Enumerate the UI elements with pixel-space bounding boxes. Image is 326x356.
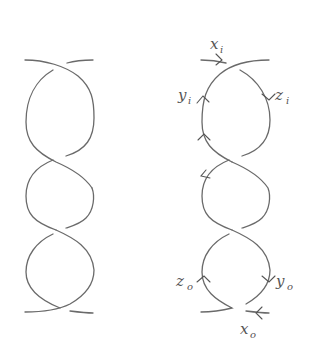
left-tangle — [25, 60, 94, 313]
svg-text:o: o — [187, 281, 193, 292]
svg-text:i: i — [188, 95, 191, 106]
label-z-i: z i — [274, 86, 289, 106]
strand-mid2-over — [25, 230, 94, 312]
strand-mid-under — [202, 160, 232, 230]
arrow-xi — [216, 54, 222, 65]
label-x-o: x o — [240, 320, 256, 340]
arrow-yi — [197, 96, 209, 103]
label-y-i: y i — [177, 86, 191, 106]
svg-text:y: y — [177, 86, 187, 104]
strand-top-under-a — [67, 60, 93, 63]
svg-text:o: o — [287, 281, 293, 292]
strand-lower — [232, 230, 270, 304]
strand-bottom-under-a — [26, 234, 60, 308]
svg-text:z: z — [175, 272, 184, 290]
svg-text:x: x — [210, 35, 219, 53]
strand-mid-left — [232, 162, 270, 228]
label-y-o: y o — [275, 272, 293, 292]
label-z-o: z o — [175, 272, 193, 292]
strand-lower-left — [201, 234, 232, 312]
svg-text:i: i — [286, 95, 289, 106]
svg-text:x: x — [240, 320, 249, 338]
label-x-i: x i — [210, 35, 223, 55]
strand-top-over — [25, 60, 94, 156]
right-tangle — [197, 54, 275, 319]
svg-text:o: o — [250, 329, 256, 340]
strand-top-under-b — [240, 70, 270, 156]
svg-text:i: i — [220, 44, 223, 55]
tangle-figure: x i y i z i z o y o x o — [0, 0, 326, 356]
strand-mid-right — [66, 188, 94, 228]
svg-text:z: z — [274, 86, 283, 104]
strand-mid1-under — [26, 160, 56, 230]
strand-bottom-under-b — [70, 311, 93, 313]
svg-text:y: y — [275, 272, 285, 290]
